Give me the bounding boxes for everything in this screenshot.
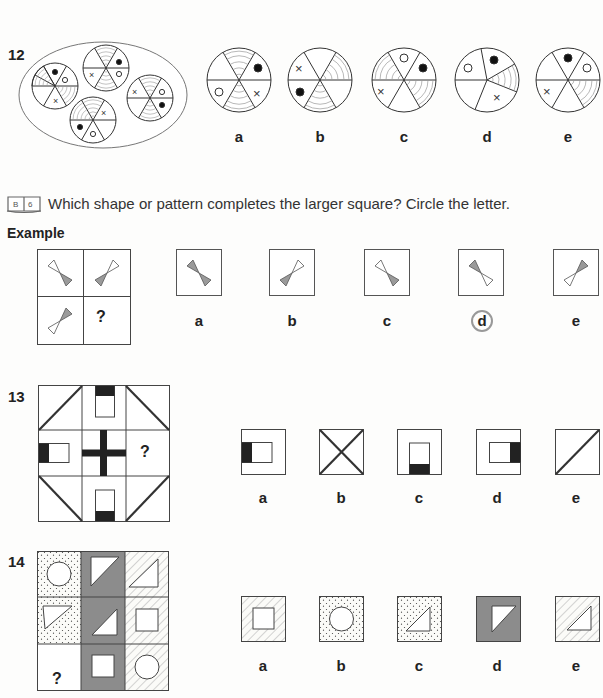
- example-grid: [37, 249, 131, 345]
- q13-question-mark: ?: [140, 443, 150, 461]
- q13-option-b[interactable]: b: [331, 489, 351, 506]
- q13-option-a[interactable]: a: [253, 489, 273, 506]
- q14-option-b[interactable]: b: [331, 657, 351, 674]
- example-option-a[interactable]: a: [189, 312, 209, 329]
- svg-text:×: ×: [89, 70, 94, 80]
- q14-option-e[interactable]: e: [566, 657, 586, 674]
- svg-text:×: ×: [101, 108, 106, 118]
- svg-text:×: ×: [295, 61, 303, 76]
- example-option-c[interactable]: c: [377, 312, 397, 329]
- question-number-14: 14: [8, 553, 25, 570]
- example-option-e[interactable]: e: [566, 312, 586, 329]
- q12-set-diagram: × × ×: [18, 40, 188, 150]
- example-question-mark: ?: [96, 308, 106, 326]
- example-option-b[interactable]: b: [282, 312, 302, 329]
- q12-option-b[interactable]: b: [310, 128, 330, 145]
- q14-option-c[interactable]: c: [409, 657, 429, 674]
- q12-option-wheels: × × ×: [206, 47, 586, 117]
- q12-option-d-wheel: ×: [455, 48, 519, 112]
- example-options: [176, 249, 596, 297]
- q12-option-c-wheel: ×: [372, 48, 436, 112]
- svg-text:×: ×: [132, 87, 137, 97]
- q13-option-e[interactable]: e: [566, 489, 586, 506]
- q13-option-c[interactable]: c: [409, 489, 429, 506]
- q12-option-e-wheel: ×: [536, 48, 600, 112]
- svg-text:6: 6: [28, 200, 33, 209]
- example-heading: Example: [7, 225, 65, 241]
- q13-option-d[interactable]: d: [487, 489, 507, 506]
- q13-options: [241, 429, 603, 476]
- q14-question-mark: ?: [52, 670, 62, 688]
- q12-option-e[interactable]: e: [558, 128, 578, 145]
- q12-option-d[interactable]: d: [477, 128, 497, 145]
- q14-option-d[interactable]: d: [487, 657, 507, 674]
- instruction-text: Which shape or pattern completes the lar…: [48, 195, 510, 212]
- svg-text:×: ×: [377, 84, 385, 99]
- svg-text:B: B: [13, 200, 18, 209]
- q14-options: [241, 596, 603, 643]
- svg-text:×: ×: [543, 84, 551, 99]
- svg-text:×: ×: [253, 86, 261, 101]
- svg-text:×: ×: [53, 96, 58, 106]
- q12-option-b-wheel: ×: [288, 48, 352, 112]
- book-icon: B 6: [7, 195, 43, 213]
- q12-option-a-wheel: ×: [207, 48, 271, 112]
- svg-text:×: ×: [493, 90, 501, 105]
- question-number-13: 13: [8, 388, 25, 405]
- q12-option-c[interactable]: c: [394, 128, 414, 145]
- example-option-d-circled[interactable]: d: [471, 310, 493, 332]
- q12-option-a[interactable]: a: [229, 128, 249, 145]
- q14-option-a[interactable]: a: [253, 657, 273, 674]
- q13-grid: [38, 385, 170, 522]
